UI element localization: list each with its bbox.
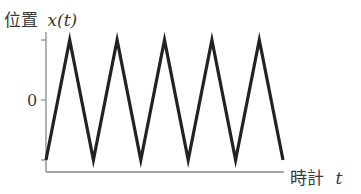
- y-axis-name: 位置: [4, 10, 38, 30]
- x-axis-label: 時計 t: [290, 168, 342, 188]
- y-axis-var: x(t): [47, 10, 77, 30]
- x-axis-var: t: [335, 168, 342, 188]
- y-zero-label: 0: [27, 91, 37, 110]
- triangle-wave-chart: 位置 x(t) 0 時計 t: [0, 0, 361, 194]
- y-axis-label: 位置 x(t): [4, 10, 77, 30]
- x-axis-name: 時計: [290, 168, 324, 188]
- position-line: [46, 40, 283, 160]
